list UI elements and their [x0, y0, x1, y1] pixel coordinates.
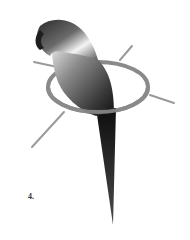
parrot-tail — [96, 108, 116, 225]
figure-number-label: 4. — [28, 192, 34, 201]
parrot-logo-illustration — [0, 0, 190, 240]
